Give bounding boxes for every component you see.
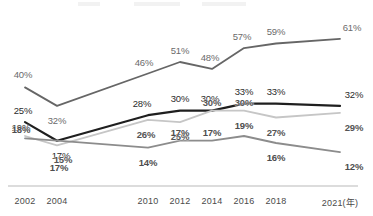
data-label-series-4-2018: 16% xyxy=(267,151,286,162)
x-tick-2012: 2012 xyxy=(170,196,191,206)
data-label-series-3-2018: 27% xyxy=(267,126,286,137)
data-label-series-2-2012: 30% xyxy=(171,92,190,103)
data-label-series-2-2018: 33% xyxy=(267,85,286,96)
data-label-series-1-2014: 48% xyxy=(201,51,220,62)
data-label-series-4-2012: 17% xyxy=(171,126,190,137)
x-axis-labels: 20022004201020122014201620182021(年) xyxy=(0,192,373,216)
data-label-series-1-2004: 32% xyxy=(48,114,67,125)
data-label-series-4-2004: 17% xyxy=(50,161,69,172)
data-label-series-3-2014: 30% xyxy=(203,96,222,107)
data-label-series-1-2010: 46% xyxy=(135,56,154,67)
data-label-series-1-2018: 59% xyxy=(267,26,286,37)
plot-area xyxy=(0,0,373,216)
x-tick-2018: 2018 xyxy=(266,196,287,206)
data-label-series-4-2002: 18% xyxy=(12,124,31,135)
data-label-series-4-2010: 14% xyxy=(139,156,158,167)
data-label-series-2-2021: 32% xyxy=(345,88,364,99)
data-label-series-4-2014: 17% xyxy=(203,126,222,137)
data-label-series-1-2012: 51% xyxy=(171,44,190,55)
x-tick-2014: 2014 xyxy=(202,196,223,206)
data-label-series-2-2016: 33% xyxy=(235,85,254,96)
data-label-series-4-2016: 19% xyxy=(235,120,254,131)
data-label-series-1-2016: 57% xyxy=(233,31,252,42)
data-label-series-3-2016: 30% xyxy=(235,96,254,107)
x-tick-2016: 2016 xyxy=(234,196,255,206)
data-label-series-3-2021: 29% xyxy=(345,121,364,132)
data-label-series-1-2021: 61% xyxy=(343,21,362,32)
line-chart: 40%32%46%51%48%57%59%61%25%17%28%30%30%3… xyxy=(0,0,373,216)
x-tick-2002: 2002 xyxy=(15,196,36,206)
x-tick-2004: 2004 xyxy=(47,196,68,206)
x-tick-2010: 2010 xyxy=(138,196,159,206)
data-label-series-4-2021: 12% xyxy=(345,161,364,172)
data-label-series-1-2002: 40% xyxy=(14,69,33,80)
x-tick-2021: 2021(年) xyxy=(322,196,358,209)
data-label-series-2-2002: 25% xyxy=(14,105,33,116)
data-label-series-3-2010: 26% xyxy=(137,128,156,139)
data-label-series-2-2010: 28% xyxy=(133,98,152,109)
